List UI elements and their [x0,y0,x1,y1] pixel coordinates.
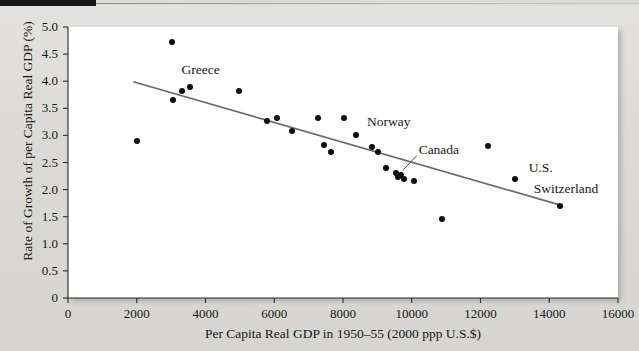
x-tick-label: 10000 [382,306,442,322]
data-point [401,176,407,182]
y-tick-label: 0 [20,290,58,306]
x-tick-label: 4000 [176,306,236,322]
data-point-us [512,176,518,182]
data-point [187,84,193,90]
x-tick-label: 16000 [588,306,639,322]
x-tick-label: 14000 [519,306,579,322]
data-point [411,178,417,184]
data-point [375,149,381,155]
x-tick-label: 6000 [244,306,304,322]
annotation-greece: Greece [181,62,219,78]
y-axis-title: Rate of Growth of per Capita Real GDP (%… [20,0,36,291]
figure-page: GreeceNorwayCanadaU.S.Switzerland 00.51.… [0,0,639,351]
trendline [133,82,563,206]
data-point [236,88,242,94]
data-point [383,165,389,171]
x-tick-label: 2000 [107,306,167,322]
data-point [369,144,375,150]
data-point [315,115,321,121]
data-point [328,149,334,155]
data-point [439,216,445,222]
x-tick-label: 12000 [451,306,511,322]
annotation-us: U.S. [529,160,553,176]
x-tick-label: 0 [38,306,98,322]
data-point-norway [341,115,347,121]
data-point [134,138,140,144]
x-axis-title: Per Capita Real GDP in 1950–55 (2000 ppp… [68,326,618,342]
annotation-switzerland: Switzerland [534,181,598,197]
annotation-canada: Canada [419,142,459,158]
x-tick-label: 8000 [313,306,373,322]
annotation-norway: Norway [367,114,411,130]
